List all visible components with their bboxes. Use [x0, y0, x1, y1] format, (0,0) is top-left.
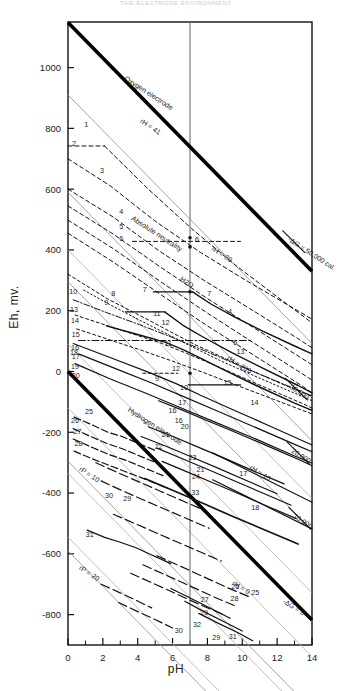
curve-label-30: 30 — [105, 491, 113, 500]
curve-label-12b: 12 — [172, 364, 180, 373]
curve-label-1: 1 — [84, 120, 88, 129]
curve-label-10: 10 — [69, 287, 77, 296]
curve-26 — [73, 429, 160, 465]
curve-label-17d: 17 — [239, 469, 247, 478]
curve-10-dashdot — [73, 300, 312, 396]
curve-7 — [193, 292, 312, 354]
junction-dot-3 — [188, 290, 192, 294]
curve-label-15: 15 — [72, 330, 80, 339]
curve-label-13b: 13 — [237, 347, 245, 356]
y-tick-label: 200 — [45, 305, 61, 316]
curve-label-29c: 29 — [200, 608, 208, 617]
curve-label-19: 19 — [71, 362, 79, 371]
junction-dot-0 — [188, 236, 192, 240]
curve-label-7b: 7 — [207, 289, 211, 298]
curve-label-7: 7 — [143, 285, 147, 294]
plot-canvas: 10008006004002000-200-400-600-8000246810… — [0, 0, 352, 691]
curve-label-24: 24 — [192, 472, 200, 481]
curve-label-27b: 27 — [201, 595, 209, 604]
curve-label-14: 14 — [71, 316, 79, 325]
y-tick-label: 600 — [45, 184, 61, 195]
curve-label-12: 12 — [162, 318, 170, 327]
curve-label-5b: 5 — [233, 338, 237, 347]
curve-label-23: 23 — [189, 453, 197, 462]
curve-label-9b: 9 — [155, 374, 159, 383]
curve-30-lower — [119, 603, 173, 629]
curve-label-6: 6 — [119, 234, 123, 243]
curve-label-27: 27 — [74, 427, 82, 436]
annotation-rh-41: rH = 41 — [139, 117, 162, 136]
curve-label-17c: 17 — [178, 398, 186, 407]
y-tick-label: -600 — [42, 548, 61, 559]
curve-label-6b: 6 — [195, 235, 199, 244]
y-tick-label: 1000 — [40, 62, 61, 73]
junction-dot-1 — [188, 245, 192, 249]
curve-label-22: 22 — [155, 442, 163, 451]
x-tick-label: 4 — [135, 652, 140, 663]
y-tick-label: 0 — [56, 366, 61, 377]
curve-label-26b: 26 — [231, 582, 239, 591]
x-tick-label: 2 — [100, 652, 105, 663]
curve-label-8b: 8 — [247, 366, 251, 375]
y-tick-label: 400 — [45, 244, 61, 255]
curve-label-4b: 4 — [228, 307, 232, 316]
curve-label-2: 2 — [72, 139, 76, 148]
curve-label-31: 31 — [86, 530, 94, 539]
curve-label-28b: 28 — [230, 594, 238, 603]
junction-dot-2 — [188, 372, 192, 376]
curve-label-3: 3 — [100, 166, 104, 175]
annotation-absolute-neutrality: Absolute neutrality — [130, 214, 185, 254]
curve-label-28: 28 — [74, 439, 82, 448]
curve-label-18: 18 — [70, 348, 78, 357]
curve-17 — [79, 354, 313, 452]
x-tick-label: 8 — [205, 652, 210, 663]
curve-label-9: 9 — [104, 298, 108, 307]
curve-label-20d: 20 — [181, 422, 189, 431]
curve-label-11: 11 — [153, 309, 160, 318]
y-tick-label: -800 — [42, 609, 61, 620]
y-tick-label: -400 — [42, 487, 61, 498]
curve-label-30b: 30 — [175, 626, 183, 635]
curve-label-29d: 29 — [212, 633, 220, 642]
curve-31-lower — [199, 613, 253, 640]
curve-label-5: 5 — [119, 222, 123, 231]
x-tick-label: 12 — [272, 652, 283, 663]
annotation-h2o: H2O — [179, 275, 195, 289]
curve-label-26: 26 — [71, 416, 79, 425]
curve-label-13: 13 — [70, 305, 78, 314]
curve-30b — [113, 514, 221, 561]
y-tick-label: -200 — [42, 427, 61, 438]
y-tick-label: 800 — [45, 123, 61, 134]
curve-label-16c: 16 — [169, 406, 177, 415]
curve-label-8: 8 — [111, 289, 115, 298]
x-tick-label: 0 — [65, 652, 70, 663]
x-tick-label: 10 — [237, 652, 248, 663]
curve-label-15b: 15 — [223, 378, 231, 387]
curve-label-32: 32 — [193, 620, 201, 629]
curve-label-25b: 25 — [251, 588, 259, 597]
curve-label-33: 33 — [191, 488, 199, 497]
curve-31-left — [101, 584, 152, 608]
curve-label-18b: 18 — [251, 503, 259, 512]
curve-label-4: 4 — [119, 207, 123, 216]
curve-label-11b: 11 — [164, 339, 171, 348]
curve-label-14b: 14 — [250, 398, 258, 407]
annotation-rh-20: rH = 20 — [226, 354, 249, 373]
curve-label-10b: 10 — [180, 383, 188, 392]
curve-label-29: 29 — [123, 494, 131, 503]
x-tick-label: 14 — [307, 652, 318, 663]
curve-label-31b: 31 — [229, 632, 237, 641]
curve-label-25: 25 — [85, 407, 93, 416]
curve-label-20: 20 — [72, 371, 80, 380]
eh-ph-chart-figure: THE ELECTRODE ENVIRONMENT Eh, mv. pH 100… — [0, 0, 352, 691]
curve-label-21: 21 — [162, 430, 170, 439]
